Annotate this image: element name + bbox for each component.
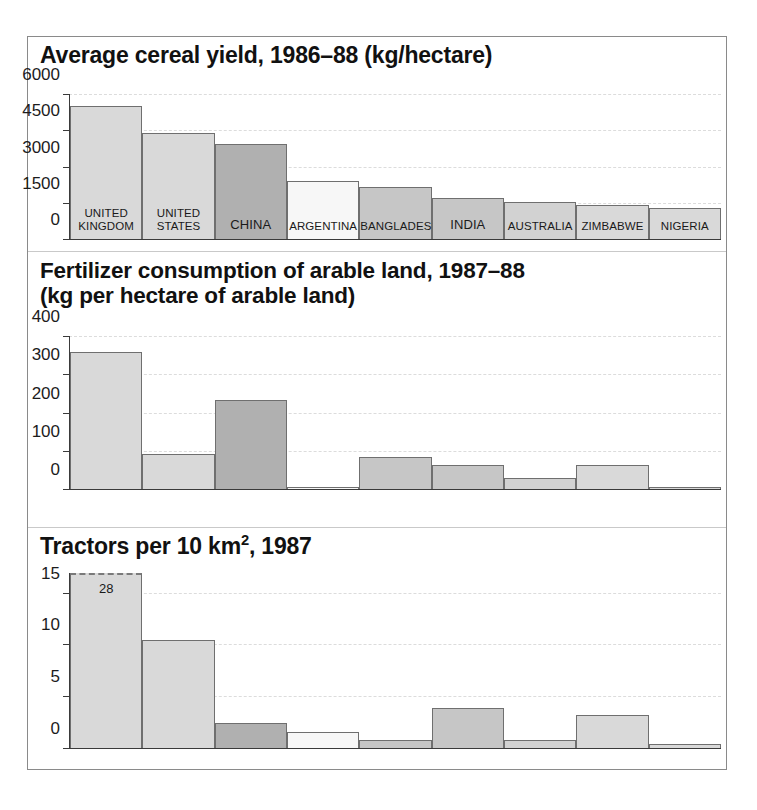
y-tick-label-fertilizer-300: 300	[32, 345, 60, 365]
bar-tractors-zimbabwe[interactable]	[576, 715, 648, 748]
bar-fertilizer-bangladesh[interactable]	[359, 457, 431, 489]
chart-title-tractors: Tractors per 10 km2, 1987	[40, 534, 312, 560]
bar-fertilizer-argentina[interactable]	[287, 487, 359, 489]
y-tick-fertilizer-300	[63, 374, 70, 375]
chart-title-tractors-suffix: , 1987	[249, 533, 312, 559]
y-tick-label-tractors-15: 15	[41, 564, 60, 584]
y-tick-label-fertilizer-400: 400	[32, 307, 60, 327]
x-axis-baseline-cereal-yield	[69, 239, 721, 240]
bar-tractors-australia[interactable]	[504, 740, 576, 748]
y-tick-tractors-10	[63, 644, 70, 645]
figure-frame: Average cereal yield, 1986–88 (kg/hectar…	[27, 36, 727, 770]
y-tick-label-cereal-yield-4500: 4500	[22, 101, 60, 121]
y-tick-tractors-0	[63, 748, 70, 749]
bar-tractors-united-states[interactable]	[142, 640, 214, 748]
y-tick-cereal-yield-6000	[63, 94, 70, 95]
bar-cereal-yield-zimbabwe[interactable]: ZIMBABWE	[576, 205, 648, 239]
bar-fertilizer-india[interactable]	[432, 465, 504, 489]
bar-tractors-india[interactable]	[432, 708, 504, 748]
bar-cereal-yield-bangladesh[interactable]: BANGLADESH	[359, 187, 431, 239]
y-tick-label-tractors-10: 10	[41, 615, 60, 635]
bar-fertilizer-zimbabwe[interactable]	[576, 465, 648, 489]
bar-fertilizer-nigeria[interactable]	[649, 487, 721, 489]
bar-fertilizer-china[interactable]	[215, 400, 287, 489]
bar-group-tractors: 28	[70, 573, 721, 748]
chart-title-tractors-prefix: Tractors per 10 km	[40, 533, 241, 559]
y-tick-label-cereal-yield-6000: 6000	[22, 65, 60, 85]
bar-cereal-yield-china[interactable]: CHINA	[215, 144, 287, 239]
bar-fertilizer-australia[interactable]	[504, 478, 576, 489]
bar-label-cereal-yield-nigeria: NIGERIA	[650, 220, 720, 233]
bar-tractors-united-kingdom[interactable]: 28	[70, 573, 142, 748]
bar-label-cereal-yield-zimbabwe: ZIMBABWE	[577, 220, 647, 233]
bar-label-cereal-yield-united-kingdom: UNITED KINGDOM	[71, 207, 141, 233]
y-tick-tractors-5	[63, 696, 70, 697]
y-tick-cereal-yield-4500	[63, 130, 70, 131]
bar-label-cereal-yield-argentina: ARGENTINA	[288, 220, 358, 233]
y-tick-fertilizer-200	[63, 413, 70, 414]
y-tick-cereal-yield-3000	[63, 167, 70, 168]
bar-cereal-yield-india[interactable]: INDIA	[432, 198, 504, 239]
y-tick-label-tractors-0: 0	[51, 719, 60, 739]
y-tick-fertilizer-100	[63, 451, 70, 452]
chart-title-tractors-superscript: 2	[241, 532, 249, 548]
x-axis-baseline-tractors	[69, 748, 721, 749]
chart-title-fertilizer-line2: (kg per hectare of arable land)	[40, 283, 355, 308]
chart-panel-tractors: Tractors per 10 km2, 1987 05101528	[28, 528, 726, 770]
bar-fertilizer-united-kingdom[interactable]	[70, 352, 142, 489]
bar-tractors-bangladesh[interactable]	[359, 740, 431, 748]
y-tick-label-fertilizer-100: 100	[32, 422, 60, 442]
chart-title-cereal-yield: Average cereal yield, 1986–88 (kg/hectar…	[40, 43, 492, 69]
plot-area-cereal-yield: 01500300045006000UNITED KINGDOMUNITED ST…	[69, 95, 721, 240]
bar-label-cereal-yield-bangladesh: BANGLADESH	[360, 220, 430, 233]
bar-cereal-yield-nigeria[interactable]: NIGERIA	[649, 208, 721, 239]
bar-label-cereal-yield-india: INDIA	[433, 218, 503, 233]
bar-tractors-argentina[interactable]	[287, 732, 359, 748]
chart-panel-fertilizer: Fertilizer consumption of arable land, 1…	[28, 252, 726, 527]
bar-cereal-yield-australia[interactable]: AUSTRALIA	[504, 202, 576, 239]
bar-cereal-yield-argentina[interactable]: ARGENTINA	[287, 181, 359, 239]
plot-area-fertilizer: 0100200300400	[69, 337, 721, 490]
y-tick-label-fertilizer-200: 200	[32, 384, 60, 404]
y-tick-label-tractors-5: 5	[51, 667, 60, 687]
bar-group-fertilizer	[70, 337, 721, 489]
bar-label-cereal-yield-china: CHINA	[216, 218, 286, 233]
bar-label-cereal-yield-united-states: UNITED STATES	[143, 207, 213, 233]
y-tick-label-cereal-yield-3000: 3000	[22, 138, 60, 158]
y-tick-cereal-yield-0	[63, 239, 70, 240]
plot-area-tractors: 05101528	[69, 573, 721, 749]
chart-title-fertilizer-line1: Fertilizer consumption of arable land, 1…	[40, 258, 525, 283]
bar-label-cereal-yield-australia: AUSTRALIA	[505, 220, 575, 233]
chart-panel-cereal-yield: Average cereal yield, 1986–88 (kg/hectar…	[28, 37, 726, 251]
bar-fertilizer-united-states[interactable]	[142, 454, 214, 489]
y-tick-label-cereal-yield-0: 0	[51, 210, 60, 230]
y-tick-label-fertilizer-0: 0	[51, 460, 60, 480]
chart-title-fertilizer: Fertilizer consumption of arable land, 1…	[40, 258, 525, 308]
y-tick-fertilizer-0	[63, 489, 70, 490]
y-tick-label-cereal-yield-1500: 1500	[22, 174, 60, 194]
bar-tractors-china[interactable]	[215, 723, 287, 748]
bar-group-cereal-yield: UNITED KINGDOMUNITED STATESCHINAARGENTIN…	[70, 95, 721, 239]
bar-value-label-tractors-united-kingdom: 28	[71, 581, 141, 596]
y-tick-tractors-15	[63, 593, 70, 594]
bar-tractors-nigeria[interactable]	[649, 744, 721, 748]
bar-cereal-yield-united-states[interactable]: UNITED STATES	[142, 133, 214, 239]
x-axis-baseline-fertilizer	[69, 489, 721, 490]
y-tick-cereal-yield-1500	[63, 203, 70, 204]
y-tick-fertilizer-400	[63, 336, 70, 337]
bar-cereal-yield-united-kingdom[interactable]: UNITED KINGDOM	[70, 106, 142, 239]
